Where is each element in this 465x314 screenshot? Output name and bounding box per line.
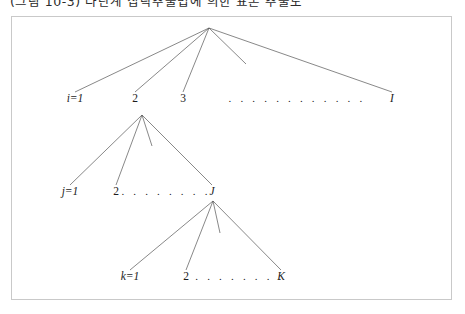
figure-border-box xyxy=(11,16,452,300)
level-2-ellipsis: . . . . . . . . xyxy=(121,185,210,197)
level-1-label-1: 2 xyxy=(132,92,138,104)
level-2-label-0: j=1 xyxy=(62,185,79,197)
level-2-label-1: 2 xyxy=(113,185,119,197)
level-3-ellipsis: . . . . . . . . . xyxy=(183,270,284,282)
figure-caption: (그림 10-3) 다단계 집락추출법에 의한 표본 추출도 xyxy=(10,0,450,7)
level-1-ellipsis: . . . . . . . . . . . . xyxy=(229,92,366,104)
level-1-label-3: I xyxy=(390,92,394,104)
level-1-label-0: i=1 xyxy=(67,92,84,104)
level-1-label-2: 3 xyxy=(180,92,186,104)
level-3-label-0: k=1 xyxy=(121,270,140,282)
